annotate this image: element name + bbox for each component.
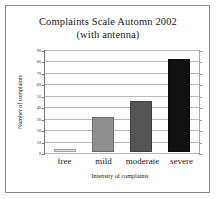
chart-subtitle: (with antenna): [10, 29, 206, 42]
y-tick-mark-right: [199, 74, 202, 75]
y-tick-mark: [42, 85, 45, 86]
y-tick-mark: [42, 108, 45, 109]
y-tick-label: 70: [37, 72, 41, 77]
x-tick-label-moderate: moderate: [123, 156, 162, 167]
y-tick-mark: [42, 62, 45, 63]
y-axis-title: Number of complaints: [17, 75, 24, 129]
chart-title-block: Complaints Scale Automn 2002 (with anten…: [10, 16, 206, 41]
y-tick-label: 60: [37, 83, 41, 88]
y-tick-mark-right: [199, 51, 202, 52]
y-tick-mark: [42, 97, 45, 98]
y-tick-mark: [42, 120, 45, 121]
x-axis-tick-labels: freemildmoderatesevere: [45, 156, 201, 167]
y-tick-label: 30: [37, 117, 41, 122]
bar-mild[interactable]: [92, 117, 114, 152]
y-tick-mark-right: [199, 62, 202, 63]
x-axis-title: Intensity of complaints: [30, 172, 210, 180]
y-tick-mark-right: [199, 108, 202, 109]
y-tick-mark-right: [199, 154, 202, 155]
y-tick-mark-right: [199, 97, 202, 98]
bar-moderate[interactable]: [130, 101, 152, 152]
y-tick-mark: [42, 74, 45, 75]
y-tick-label: 10: [37, 140, 41, 145]
chart-title: Complaints Scale Automn 2002: [10, 16, 206, 29]
plot-wrapper: 9080706050403020100: [44, 50, 200, 154]
y-tick-mark-right: [199, 143, 202, 144]
y-tick-mark: [42, 154, 45, 155]
bar-slot: [122, 50, 160, 152]
x-tick-label-mild: mild: [84, 156, 123, 167]
y-tick-label: 50: [37, 95, 41, 100]
y-axis-title-holder: Number of complaints: [14, 50, 26, 154]
y-tick-mark: [42, 131, 45, 132]
y-tick-mark-right: [199, 131, 202, 132]
y-tick-label: 80: [37, 60, 41, 65]
y-tick-mark-right: [199, 120, 202, 121]
bar-slot: [46, 50, 84, 152]
x-tick-label-free: free: [45, 156, 84, 167]
y-tick-label: 40: [37, 106, 41, 111]
y-tick-mark-right: [199, 85, 202, 86]
y-tick-label: 0: [39, 152, 41, 157]
y-tick-label: 20: [37, 129, 41, 134]
bars-group: [46, 50, 198, 152]
y-tick-mark: [42, 143, 45, 144]
bar-free[interactable]: [54, 149, 76, 152]
bar-severe[interactable]: [168, 59, 190, 152]
bar-slot: [84, 50, 122, 152]
y-tick-mark: [42, 51, 45, 52]
y-tick-label: 90: [37, 49, 41, 54]
chart-figure: Complaints Scale Automn 2002 (with anten…: [0, 0, 216, 199]
gridline: 0: [45, 153, 199, 154]
x-tick-label-severe: severe: [162, 156, 201, 167]
plot-area: 9080706050403020100: [44, 50, 200, 154]
bar-slot: [160, 50, 198, 152]
